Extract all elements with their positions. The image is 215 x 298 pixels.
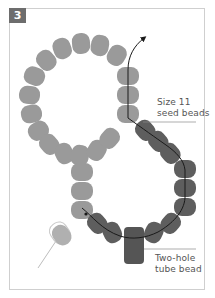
tube-bead-label-line1: Two-hole xyxy=(155,253,202,264)
seed-beads-label-line1: Size 11 xyxy=(157,97,210,108)
tube-bead xyxy=(124,227,144,264)
seed-bead xyxy=(71,32,91,54)
tube-bead-label-line2: tube bead xyxy=(155,264,202,275)
seed-bead xyxy=(71,163,93,181)
seed-beads-label: Size 11 seed beads xyxy=(157,97,210,119)
tube-bead-label: Two-hole tube bead xyxy=(155,253,202,275)
top-ring-beads xyxy=(18,32,139,167)
seed-bead xyxy=(71,182,93,200)
stem-beads xyxy=(71,163,93,219)
thread-start-dot xyxy=(84,212,87,215)
seed-bead-tail xyxy=(49,222,75,249)
seed-beads-label-line2: seed beads xyxy=(157,108,210,119)
seed-bead xyxy=(18,85,40,105)
